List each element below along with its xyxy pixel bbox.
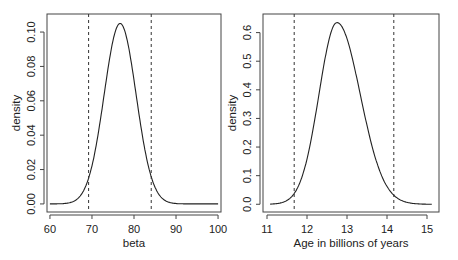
y-axis-label: density [10,95,22,132]
beta-density-panel: 60708090100beta0.000.020.040.060.080.10d… [10,14,227,249]
x-tick-label: 14 [381,223,393,235]
density-curve [50,24,218,204]
x-tick-label: 60 [44,223,56,235]
y-tick-label: 0.6 [241,25,253,40]
y-tick-label: 0.02 [25,159,37,180]
plot-frame [47,14,221,212]
y-tick-label: 0.5 [241,54,253,69]
x-tick-label: 15 [421,223,433,235]
y-tick-label: 0.4 [241,82,253,97]
y-tick-label: 0.04 [25,124,37,145]
y-tick-label: 0.08 [25,56,37,77]
x-axis: 60708090100beta [44,215,227,249]
y-tick-label: 0.2 [241,139,253,154]
x-axis-label: beta [123,237,146,249]
chart-figure: 60708090100beta0.000.020.040.060.080.10d… [0,0,458,260]
y-tick-label: 0.10 [25,21,37,42]
x-tick-label: 11 [261,223,272,235]
y-tick-label: 0.0 [241,197,253,212]
x-tick-label: 12 [301,223,313,235]
x-tick-label: 90 [170,223,182,235]
x-tick-label: 13 [341,223,353,235]
age-density-panel: 1112131415Age in billions of years0.00.1… [226,14,439,249]
x-tick-label: 80 [128,223,140,235]
plot-frame [263,14,439,212]
y-tick-label: 0.06 [25,90,37,111]
x-tick-label: 70 [86,223,98,235]
x-axis: 1112131415Age in billions of years [261,215,433,249]
y-axis-label: density [226,95,238,132]
y-tick-label: 0.1 [241,168,253,183]
x-axis-label: Age in billions of years [293,237,408,249]
x-tick-label: 100 [209,223,227,235]
y-axis: 0.00.10.20.30.40.50.6density [226,25,260,212]
y-tick-label: 0.3 [241,111,253,126]
y-tick-label: 0.00 [25,193,37,214]
y-axis: 0.000.020.040.060.080.10density [10,21,44,214]
